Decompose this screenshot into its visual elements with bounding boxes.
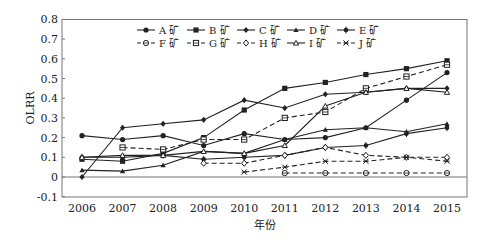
y-tick-label: 0.5 — [41, 73, 59, 86]
x-axis-ticks: 2006200720082009201020112012201320142015 — [68, 202, 461, 215]
y-tick-label: 0 — [51, 171, 58, 184]
x-tick-label: 2015 — [433, 202, 461, 215]
y-tick-label: 0.1 — [41, 151, 59, 164]
y-tick-label: 0.4 — [41, 92, 59, 105]
data-series — [79, 58, 449, 180]
legend-item: F 矿 — [137, 37, 179, 49]
legend-item: I 矿 — [287, 37, 326, 49]
legend-label: J 矿 — [358, 37, 376, 49]
legend-label: D 矿 — [309, 24, 330, 36]
legend-label: G 矿 — [209, 37, 230, 49]
legend-label: C 矿 — [259, 24, 280, 36]
legend-item: D 矿 — [287, 24, 330, 36]
legend-label: I 矿 — [309, 37, 326, 49]
x-tick-label: 2006 — [68, 202, 96, 215]
legend-item: B 矿 — [187, 24, 230, 36]
x-tick-label: 2008 — [149, 202, 177, 215]
y-tick-label: 0.3 — [41, 112, 59, 125]
y-axis-title: OLRR — [24, 91, 37, 125]
x-tick-label: 2012 — [311, 202, 339, 215]
legend-label: E 矿 — [359, 24, 379, 36]
legend-item: G 矿 — [187, 37, 230, 49]
legend-label: B 矿 — [209, 24, 230, 36]
series-f — [282, 170, 449, 175]
x-tick-label: 2009 — [190, 202, 218, 215]
x-tick-label: 2013 — [352, 202, 380, 215]
y-tick-label: 0.8 — [41, 13, 59, 26]
legend-item: J 矿 — [337, 37, 376, 49]
line-chart: -0.100.10.20.30.40.50.60.70.8 2006200720… — [0, 0, 494, 240]
y-tick-label: 0.2 — [41, 132, 59, 145]
legend-label: H 矿 — [259, 37, 281, 49]
legend-label: A 矿 — [158, 24, 179, 36]
legend-item: C 矿 — [237, 24, 280, 36]
series-a — [79, 70, 449, 148]
y-tick-label: 0.6 — [41, 53, 59, 66]
x-tick-label: 2011 — [271, 202, 299, 215]
x-tick-label: 2014 — [392, 202, 420, 215]
legend-item: H 矿 — [237, 37, 281, 49]
series-h — [201, 144, 450, 166]
legend-item: E 矿 — [337, 24, 379, 36]
legend: A 矿B 矿C 矿D 矿E 矿F 矿G 矿H 矿I 矿J 矿 — [137, 24, 379, 49]
y-tick-label: -0.1 — [37, 191, 58, 204]
y-tick-label: 0.7 — [41, 33, 59, 46]
legend-item: A 矿 — [137, 24, 179, 36]
y-axis-ticks: -0.100.10.20.30.40.50.60.70.8 — [37, 13, 65, 203]
x-tick-label: 2007 — [109, 202, 137, 215]
x-axis-title: 年份 — [254, 218, 276, 232]
x-tick-label: 2010 — [230, 202, 258, 215]
legend-label: F 矿 — [159, 37, 179, 49]
